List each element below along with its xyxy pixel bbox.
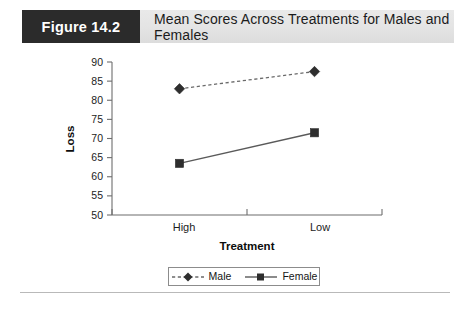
legend-label-male: Male [209, 271, 232, 282]
legend-female-sample-icon [244, 271, 278, 283]
legend-male-sample-icon [171, 271, 205, 283]
y-tick-label-50: 50 [91, 209, 103, 221]
y-axis-ticks: 908580757065605550 [91, 56, 112, 221]
figure-header: Figure 14.2 Mean Scores Across Treatment… [22, 10, 454, 43]
chart-legend: Male Female [168, 267, 320, 286]
figure-number-badge: Figure 14.2 [22, 10, 140, 43]
y-tick-label-60: 60 [91, 170, 103, 182]
data-point-female-low [310, 129, 318, 137]
y-tick-label-75: 75 [91, 113, 103, 125]
x-tick-label-high: High [173, 221, 196, 233]
data-point-male-low [309, 66, 319, 76]
y-tick-label-80: 80 [91, 94, 103, 106]
bottom-divider [20, 292, 450, 293]
y-tick-label-90: 90 [91, 56, 103, 68]
figure-title: Mean Scores Across Treatments for Males … [140, 10, 454, 43]
x-axis [112, 209, 382, 215]
y-tick-label-70: 70 [91, 132, 103, 144]
line-chart: 908580757065605550 High Low Treatment Lo… [0, 44, 466, 292]
data-point-male-high [174, 84, 184, 94]
y-tick-label-55: 55 [91, 189, 103, 201]
legend-entry-female: Female [244, 271, 317, 283]
x-axis-title: Treatment [220, 240, 275, 252]
series-line-male [180, 72, 315, 89]
chart-area: 908580757065605550 High Low Treatment Lo… [0, 44, 466, 292]
legend-entry-male: Male [171, 271, 232, 283]
legend-label-female: Female [282, 271, 317, 282]
data-point-female-high [175, 159, 183, 167]
data-series-group [174, 66, 319, 167]
y-tick-label-85: 85 [91, 75, 103, 87]
y-tick-label-65: 65 [91, 151, 103, 163]
series-line-female [180, 133, 315, 164]
x-tick-label-low: Low [310, 221, 330, 233]
y-axis-title: Loss [64, 126, 76, 153]
